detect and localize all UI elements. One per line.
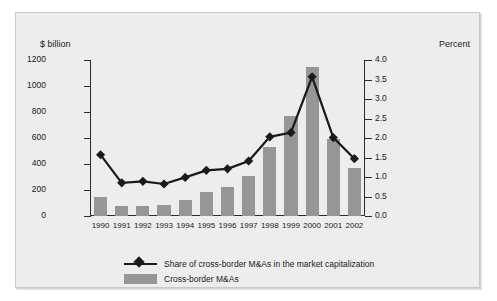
left-tick-label: 0 — [41, 210, 46, 220]
line-marker — [159, 179, 168, 188]
chart-legend: Share of cross-border M&As in the market… — [124, 257, 374, 287]
left-tick-label: 1000 — [27, 80, 46, 90]
line-marker — [138, 177, 147, 186]
line-marker — [202, 166, 211, 175]
chart-panel: $ billion Percent 020040060080010001200 … — [15, 12, 480, 288]
right-tick-label: 2.0 — [375, 132, 387, 142]
left-tick-label: 200 — [32, 184, 46, 194]
x-axis-label: 1994 — [175, 221, 196, 230]
right-tick-label: 4.0 — [375, 54, 387, 64]
x-axis-label: 2002 — [344, 221, 365, 230]
line-marker — [286, 128, 295, 137]
left-tick-label: 1200 — [27, 54, 46, 64]
x-axis-label: 1997 — [238, 221, 259, 230]
legend-label-share: Share of cross-border M&As in the market… — [164, 259, 374, 269]
right-tick — [365, 216, 372, 217]
left-tick-label: 400 — [32, 158, 46, 168]
line-marker — [181, 173, 190, 182]
x-axis-label: 1990 — [90, 221, 111, 230]
right-tick — [365, 197, 372, 198]
line-series — [90, 60, 365, 216]
right-axis-title: Percent — [439, 39, 470, 49]
line-markers — [96, 72, 359, 188]
x-axis-label: 1993 — [153, 221, 174, 230]
x-axis-label: 1999 — [280, 221, 301, 230]
right-tick-label: 0.5 — [375, 191, 387, 201]
line-marker — [223, 164, 232, 173]
legend-label-mas: Cross-border M&As — [164, 274, 239, 284]
right-tick — [365, 60, 372, 61]
right-tick — [365, 80, 372, 81]
left-tick — [84, 216, 91, 217]
x-axis-label: 1998 — [259, 221, 280, 230]
x-axis-label: 1991 — [111, 221, 132, 230]
left-axis-title: $ billion — [40, 39, 71, 49]
right-tick-label: 1.5 — [375, 152, 387, 162]
left-tick-label: 800 — [32, 106, 46, 116]
right-tick — [365, 177, 372, 178]
left-tick-label: 600 — [32, 132, 46, 142]
right-tick-label: 0.0 — [375, 210, 387, 220]
legend-item-line: Share of cross-border M&As in the market… — [124, 257, 374, 270]
legend-item-bar: Cross-border M&As — [124, 272, 374, 285]
right-tick-label: 3.0 — [375, 93, 387, 103]
x-axis-label: 2001 — [323, 221, 344, 230]
right-tick — [365, 158, 372, 159]
x-axis-label: 2000 — [302, 221, 323, 230]
right-tick — [365, 138, 372, 139]
right-tick-label: 3.5 — [375, 74, 387, 84]
x-axis-label: 1995 — [196, 221, 217, 230]
bar-swatch-icon — [124, 274, 157, 284]
right-tick — [365, 99, 372, 100]
x-axis-label: 1996 — [217, 221, 238, 230]
right-tick — [365, 119, 372, 120]
x-axis-label: 1992 — [132, 221, 153, 230]
right-tick-label: 2.5 — [375, 113, 387, 123]
line-marker — [308, 72, 317, 81]
right-tick-label: 1.0 — [375, 171, 387, 181]
line-marker-icon — [124, 258, 157, 270]
